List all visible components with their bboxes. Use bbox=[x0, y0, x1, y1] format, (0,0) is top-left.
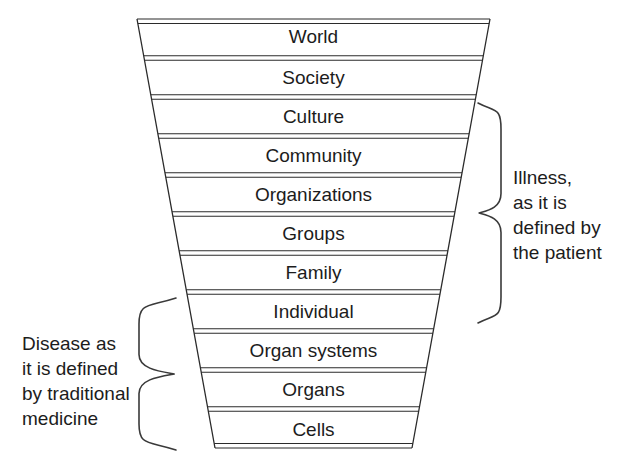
brace-illness bbox=[478, 103, 501, 323]
tier-label-family: Family bbox=[286, 262, 342, 283]
tier-label-society: Society bbox=[282, 67, 345, 88]
tier-label-organs: Organs bbox=[282, 379, 344, 400]
tier-label-cells: Cells bbox=[292, 419, 334, 440]
tier-label-organizations: Organizations bbox=[255, 184, 372, 205]
diagram-root: WorldSocietyCultureCommunityOrganization… bbox=[0, 0, 628, 474]
annotation-disease-label: Disease as it is defined by traditional … bbox=[22, 331, 172, 431]
annotation-illness-label: Illness, as it is defined by the patient bbox=[513, 165, 625, 265]
tier-label-culture: Culture bbox=[283, 106, 344, 127]
tier-label-groups: Groups bbox=[282, 223, 344, 244]
tier-label-organ-systems: Organ systems bbox=[250, 340, 378, 361]
tier-label-individual: Individual bbox=[273, 301, 353, 322]
tier-label-community: Community bbox=[265, 145, 362, 166]
tier-label-world: World bbox=[289, 26, 338, 47]
